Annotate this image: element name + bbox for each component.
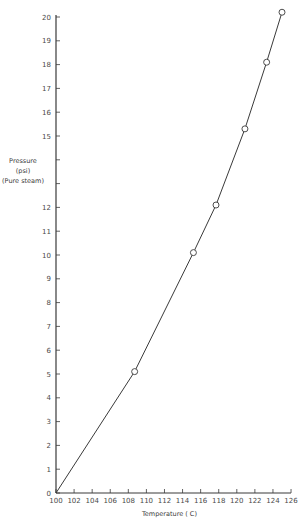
data-series [56, 9, 285, 493]
data-point-marker [190, 250, 196, 256]
y-tick-label: 20 [42, 14, 51, 22]
x-tick-label: 120 [230, 497, 243, 505]
y-tick-label: 2 [47, 442, 51, 450]
x-tick-label: 106 [104, 497, 118, 505]
x-tick-label: 118 [212, 497, 225, 505]
steam-pressure-chart: 0123456789101112151617181920 10010210410… [0, 0, 302, 521]
x-tick-label: 126 [284, 497, 298, 505]
data-point-marker [264, 59, 270, 65]
data-point-marker [213, 202, 219, 208]
y-tick-label: 15 [42, 133, 51, 141]
y-tick-label: 12 [42, 204, 51, 212]
y-tick-label: 6 [47, 347, 52, 355]
x-tick-label: 110 [140, 497, 153, 505]
x-tick-label: 124 [266, 497, 280, 505]
y-tick-label: 19 [42, 37, 51, 45]
y-tick-label: 4 [47, 394, 52, 402]
data-point-marker [132, 369, 138, 375]
x-tick-label: 100 [49, 497, 62, 505]
y-tick-label: 8 [47, 299, 51, 307]
y-tick-label: 7 [47, 323, 51, 331]
x-axis-title: Temperature ( C) [141, 510, 197, 518]
y-tick-label: 9 [47, 275, 51, 283]
y-tick-label: 16 [42, 109, 51, 117]
x-tick-label: 108 [122, 497, 135, 505]
x-tick-label: 116 [194, 497, 208, 505]
y-tick-label: 10 [42, 252, 51, 260]
data-point-marker [242, 126, 248, 132]
y-axis-title-line-1: Pressure [9, 157, 37, 165]
y-tick-label: 18 [42, 61, 51, 69]
x-tick-label: 122 [248, 497, 261, 505]
series-line [56, 12, 282, 493]
y-tick-label: 3 [47, 418, 51, 426]
y-axis-title-line-3: (Pure steam) [2, 177, 44, 185]
y-tick-label: 5 [47, 371, 51, 379]
y-axis: 0123456789101112151617181920 [42, 14, 60, 498]
x-axis: 1001021041061081101121141161181201221241… [49, 489, 298, 505]
x-tick-label: 114 [176, 497, 190, 505]
x-tick-label: 102 [67, 497, 80, 505]
y-axis-title: Pressure (psi) (Pure steam) [2, 157, 44, 185]
data-point-marker [279, 9, 285, 15]
x-tick-label: 112 [158, 497, 171, 505]
y-tick-label: 11 [42, 228, 51, 236]
y-tick-label: 17 [42, 85, 51, 93]
y-axis-title-line-2: (psi) [16, 167, 30, 175]
y-tick-label: 1 [47, 466, 51, 474]
x-tick-label: 104 [85, 497, 99, 505]
